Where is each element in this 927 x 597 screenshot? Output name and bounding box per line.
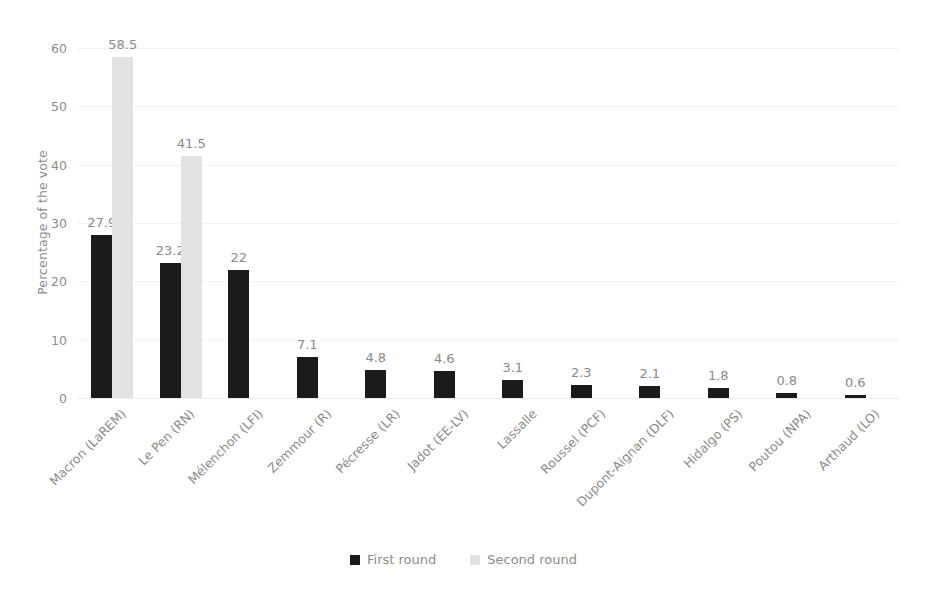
bar[interactable]: 23.2 [160, 263, 181, 398]
bar-group: 23.241.5 [147, 48, 216, 398]
bar[interactable]: 27.9 [91, 235, 112, 398]
bar-group: 7.1 [284, 48, 353, 398]
plot-area: 010203040506027.958.523.241.5227.14.84.6… [78, 48, 900, 398]
bar-group-bars: 1.8 [695, 48, 764, 398]
y-axis-tick-60: 60 [51, 41, 67, 56]
bar-group-bars: 22 [215, 48, 284, 398]
x-axis-label: Le Pen (RN) [55, 406, 198, 549]
bar[interactable]: 2.3 [571, 385, 592, 398]
bar-group-bars: 0.8 [763, 48, 832, 398]
bar-value-label: 22 [230, 250, 247, 265]
bar-group-bars: 2.3 [558, 48, 627, 398]
bar-group: 4.6 [421, 48, 490, 398]
y-axis-tick-50: 50 [51, 99, 67, 114]
bar-group-bars: 23.241.5 [147, 48, 216, 398]
bar-group-bars: 3.1 [489, 48, 558, 398]
bar-value-label: 0.8 [776, 373, 797, 388]
bar[interactable]: 4.6 [434, 371, 455, 398]
bar-group-bars: 7.1 [284, 48, 353, 398]
y-axis-tick-20: 20 [51, 274, 67, 289]
bar-value-label: 0.6 [845, 375, 866, 390]
y-axis-tick-40: 40 [51, 157, 67, 172]
bar-group-bars: 0.6 [832, 48, 901, 398]
bar[interactable]: 7.1 [297, 357, 318, 398]
bar-group: 2.1 [626, 48, 695, 398]
y-axis-tick-10: 10 [51, 332, 67, 347]
bar-group-bars: 4.6 [421, 48, 490, 398]
bar-value-label: 4.8 [365, 350, 386, 365]
chart-legend: First roundSecond round [0, 552, 927, 567]
bar[interactable]: 0.8 [776, 393, 797, 398]
legend-label: Second round [487, 552, 577, 567]
legend-item-second-round[interactable]: Second round [470, 552, 577, 567]
bar-value-label: 2.3 [571, 365, 592, 380]
y-axis-tick-30: 30 [51, 216, 67, 231]
bar-value-label: 58.5 [108, 37, 137, 52]
bar[interactable]: 58.5 [112, 57, 133, 398]
bar-group: 0.6 [832, 48, 901, 398]
bar-group: 27.958.5 [78, 48, 147, 398]
bar-group-bars: 27.958.5 [78, 48, 147, 398]
bar-value-label: 41.5 [177, 136, 206, 151]
bar[interactable]: 0.6 [845, 395, 866, 399]
bar-group: 1.8 [695, 48, 764, 398]
bar-value-label: 3.1 [502, 360, 523, 375]
legend-swatch-icon [350, 555, 360, 565]
bar[interactable]: 4.8 [365, 370, 386, 398]
legend-swatch-icon [470, 555, 480, 565]
bar[interactable]: 2.1 [639, 386, 660, 398]
bar-value-label: 1.8 [708, 368, 729, 383]
legend-item-first-round[interactable]: First round [350, 552, 436, 567]
bar-value-label: 2.1 [639, 366, 660, 381]
bar-group: 0.8 [763, 48, 832, 398]
bar-group: 3.1 [489, 48, 558, 398]
x-axis-label: Lassalle [155, 406, 540, 597]
bar-group-bars: 4.8 [352, 48, 421, 398]
bar[interactable]: 3.1 [502, 380, 523, 398]
bar[interactable]: 41.5 [181, 156, 202, 398]
y-axis-title: Percentage of the vote [35, 103, 50, 343]
bar-group: 4.8 [352, 48, 421, 398]
y-axis-tick-0: 0 [59, 391, 67, 406]
bar-group: 22 [215, 48, 284, 398]
bar-chart: Percentage of the vote 010203040506027.9… [0, 0, 927, 597]
bar-value-label: 7.1 [297, 337, 318, 352]
gridline-0 [78, 398, 900, 399]
bar[interactable]: 22 [228, 270, 249, 398]
bar-value-label: 4.6 [434, 351, 455, 366]
bar-group: 2.3 [558, 48, 627, 398]
legend-label: First round [367, 552, 436, 567]
bar[interactable]: 1.8 [708, 388, 729, 399]
bar-group-bars: 2.1 [626, 48, 695, 398]
